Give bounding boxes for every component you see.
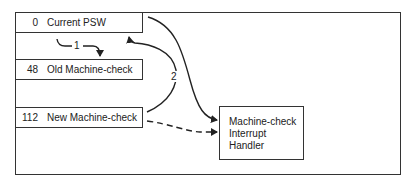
step-2-arrow [129, 37, 176, 112]
flow-arrows [0, 0, 416, 182]
psw-to-handler-arrow [148, 17, 217, 120]
step-1-label: 1 [74, 40, 80, 51]
new-psw-to-handler-dashed-arrow [147, 121, 217, 132]
step-2-label: 2 [171, 71, 177, 82]
